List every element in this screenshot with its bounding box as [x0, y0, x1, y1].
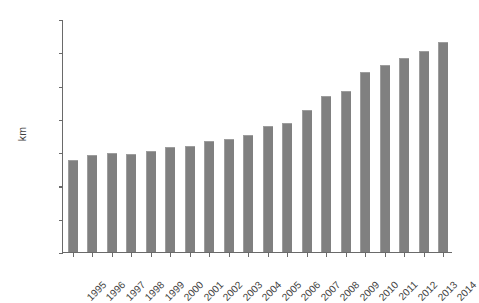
x-tick-2005: [268, 253, 269, 257]
x-tick-2011: [385, 253, 386, 257]
x-tick-2009: [346, 253, 347, 257]
x-tick-2006: [287, 253, 288, 257]
bar-2012: [399, 58, 409, 252]
bars-layer: [63, 20, 452, 252]
bar-2004: [243, 135, 253, 252]
y-axis-title: km: [16, 114, 28, 154]
x-tick-1999: [151, 253, 152, 257]
x-tick-2002: [209, 253, 210, 257]
x-tick-1996: [92, 253, 93, 257]
x-tick-label-2011: 2011: [396, 279, 419, 302]
x-tick-label-2010: 2010: [377, 279, 401, 303]
figure-caption-fragment: [26, 291, 236, 298]
bar-2014: [438, 42, 448, 252]
x-tick-2007: [307, 253, 308, 257]
bar-2002: [204, 141, 214, 253]
x-tick-2010: [365, 253, 366, 257]
plot-area: 1995199619971998199920002001200220032004…: [62, 20, 452, 253]
y-tick-0: [59, 253, 63, 254]
x-tick-label-2012: 2012: [416, 279, 440, 303]
x-tick-label-2006: 2006: [299, 279, 323, 303]
x-tick-1998: [131, 253, 132, 257]
x-tick-2001: [190, 253, 191, 257]
x-tick-label-2003: 2003: [240, 279, 264, 303]
bar-2005: [263, 126, 273, 252]
bar-2010: [360, 72, 370, 252]
bar-1997: [107, 153, 117, 252]
x-tick-1995: [73, 253, 74, 257]
bar-2001: [185, 146, 195, 253]
x-tick-2014: [443, 253, 444, 257]
bar-1999: [146, 151, 156, 252]
bar-1995: [68, 160, 78, 252]
x-tick-2004: [248, 253, 249, 257]
bar-2003: [224, 139, 234, 252]
x-tick-2003: [229, 253, 230, 257]
bar-2008: [321, 96, 331, 252]
x-tick-label-2014: 2014: [455, 279, 479, 303]
bar-2011: [380, 65, 390, 252]
bar-2000: [165, 147, 175, 252]
x-tick-label-2009: 2009: [357, 279, 381, 303]
bar-2006: [282, 123, 292, 252]
x-tick-2013: [424, 253, 425, 257]
bar-2007: [302, 110, 312, 252]
x-tick-label-2007: 2007: [318, 279, 342, 303]
x-tick-label-2005: 2005: [279, 279, 303, 303]
x-tick-label-2013: 2013: [435, 279, 459, 303]
bar-1996: [87, 155, 97, 252]
x-tick-2000: [170, 253, 171, 257]
x-tick-label-2008: 2008: [338, 279, 362, 303]
x-tick-2012: [404, 253, 405, 257]
x-tick-label-2004: 2004: [260, 279, 284, 303]
x-tick-1997: [112, 253, 113, 257]
x-tick-2008: [326, 253, 327, 257]
bar-1998: [126, 154, 136, 252]
bar-2013: [419, 51, 429, 252]
bar-2009: [341, 91, 351, 252]
